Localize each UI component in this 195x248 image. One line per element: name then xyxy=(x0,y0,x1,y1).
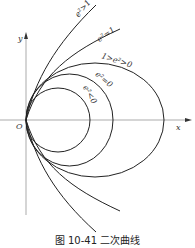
origin-label: O xyxy=(16,122,23,131)
x-arrow-icon xyxy=(185,118,192,122)
figure-caption: 图 10-41 二次曲线 xyxy=(0,232,195,247)
y-axis-label: y xyxy=(18,34,23,43)
y-arrow-icon xyxy=(24,32,28,39)
x-axis-label: x xyxy=(176,123,181,132)
curve-hyperbola xyxy=(26,5,96,232)
